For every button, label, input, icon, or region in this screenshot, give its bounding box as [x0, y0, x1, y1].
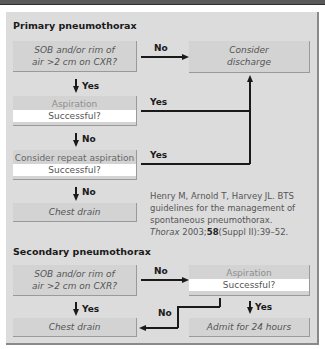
- sec-no-h1: [177, 306, 220, 308]
- reference-line3: spontaneous pneumothorax.: [150, 214, 320, 226]
- primary-title: Primary pneumothorax: [13, 20, 137, 31]
- aspiration-yes-label: Yes: [150, 97, 167, 107]
- aspiration-box: Aspiration Successful?: [13, 96, 137, 126]
- arrow-down-icon: [73, 194, 79, 201]
- secondary-no-line: [141, 279, 183, 281]
- secondary-q-yes-label: Yes: [82, 304, 99, 314]
- reference-line2: guidelines for the management of: [150, 202, 320, 214]
- secondary-aspiration-yes-label: Yes: [255, 302, 272, 312]
- secondary-chest-drain-box: Chest drain: [13, 318, 137, 337]
- secondary-aspiration-no-label: No: [158, 308, 172, 318]
- aspiration-question: Successful?: [13, 110, 136, 122]
- reference-citation: Henry M, Arnold T, Harvey JL. BTS guidel…: [150, 190, 320, 238]
- secondary-title: Secondary pneumothorax: [13, 246, 151, 257]
- discharge-line1: Consider: [189, 44, 309, 56]
- primary-question-box: SOB and/or rim of air >2 cm on CXR?: [13, 41, 137, 72]
- sec-no-v2: [177, 306, 179, 328]
- aspiration-yes-line: [141, 110, 250, 112]
- primary-q-no-label: No: [154, 43, 168, 53]
- primary-chest-drain-box: Chest drain: [13, 203, 137, 222]
- repeat-no-label: No: [82, 187, 96, 197]
- arrow-down-icon: [73, 86, 79, 93]
- yes-vertical-connector: [249, 80, 251, 164]
- arrow-down-icon: [73, 140, 79, 147]
- reference-pages: (Suppl II):39–52.: [219, 227, 289, 237]
- arrow-down-icon: [73, 309, 79, 316]
- primary-chest-drain-label: Chest drain: [13, 206, 136, 218]
- discharge-box: Consider discharge: [189, 41, 310, 73]
- repeat-question: Successful?: [13, 164, 136, 176]
- discharge-line2: discharge: [189, 56, 309, 68]
- secondary-q-line2: air >2 cm on CXR?: [13, 280, 136, 292]
- secondary-aspiration-box: Aspiration Successful?: [189, 265, 310, 296]
- primary-no-line: [141, 56, 183, 58]
- secondary-aspiration-question: Successful?: [189, 279, 309, 291]
- sec-no-h2: [145, 327, 178, 329]
- arrow-up-icon: [247, 75, 253, 82]
- arrow-left-icon: [139, 325, 146, 331]
- secondary-q-line1: SOB and/or rim of: [13, 268, 136, 280]
- admit-label: Admit for 24 hours: [189, 321, 309, 333]
- secondary-q-no-label: No: [154, 266, 168, 276]
- reference-year: 2003;: [182, 227, 207, 237]
- reference-volume: 58: [207, 227, 219, 237]
- primary-q-yes-label: Yes: [82, 81, 99, 91]
- secondary-aspiration-head: Aspiration: [189, 265, 309, 279]
- repeat-yes-label: Yes: [150, 150, 167, 160]
- primary-q-line1: SOB and/or rim of: [13, 44, 136, 56]
- secondary-chest-drain-label: Chest drain: [13, 321, 136, 333]
- repeat-yes-line: [141, 163, 250, 165]
- arrow-down-icon: [247, 307, 253, 314]
- reference-journal: Thorax: [150, 227, 180, 237]
- arrow-right-icon: [182, 54, 189, 60]
- aspiration-head: Aspiration: [13, 96, 136, 110]
- arrow-right-icon: [182, 277, 189, 283]
- reference-line4: Thorax 2003;58(Suppl II):39–52.: [150, 226, 320, 238]
- admit-box: Admit for 24 hours: [189, 318, 310, 337]
- repeat-head: Consider repeat aspiration: [13, 150, 136, 164]
- primary-q-line2: air >2 cm on CXR?: [13, 56, 136, 68]
- reference-line1: Henry M, Arnold T, Harvey JL. BTS: [150, 190, 320, 202]
- aspiration-no-label: No: [82, 134, 96, 144]
- secondary-question-box: SOB and/or rim of air >2 cm on CXR?: [13, 265, 137, 296]
- repeat-aspiration-box: Consider repeat aspiration Successful?: [13, 150, 137, 180]
- top-bar: [0, 0, 325, 5]
